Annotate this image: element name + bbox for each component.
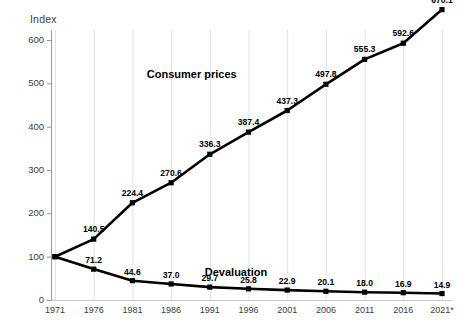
series-label-consumer-prices: Consumer prices: [147, 68, 237, 80]
data-point-marker: [323, 82, 328, 87]
data-point-label: 140.5: [72, 224, 116, 234]
data-point-marker: [130, 200, 135, 205]
y-tickmarks: [47, 41, 52, 301]
data-point-marker: [439, 291, 444, 296]
y-tick-label: 200: [8, 207, 44, 218]
data-point-label: 22.9: [265, 276, 309, 286]
chart-container: Index 6005004003002001000 19711976198119…: [0, 0, 458, 335]
data-point-marker: [169, 281, 174, 286]
data-point-label: 270.6: [149, 168, 193, 178]
data-point-label: 14.9: [420, 280, 458, 290]
data-point-marker: [285, 108, 290, 113]
data-point-label: 18.0: [343, 278, 387, 288]
y-tick-label: 100: [8, 251, 44, 262]
y-tick-label: 600: [8, 34, 44, 45]
data-point-marker: [91, 237, 96, 242]
data-point-marker: [207, 152, 212, 157]
data-point-label: 16.9: [381, 279, 425, 289]
data-point-label: 29.7: [188, 273, 232, 283]
data-point-label: 555.3: [343, 44, 387, 54]
data-point-marker: [246, 130, 251, 135]
data-point-label: 44.6: [110, 267, 154, 277]
data-point-label: 387.4: [227, 117, 271, 127]
data-point-label: 37.0: [149, 270, 193, 280]
data-point-marker: [52, 254, 57, 259]
data-point-label: 25.8: [227, 275, 271, 285]
data-point-marker: [285, 287, 290, 292]
data-point-label: 336.3: [188, 139, 232, 149]
data-point-label: 592.6: [381, 28, 425, 38]
x-tick-label: 2021*: [418, 305, 458, 315]
data-point-label: 437.3: [265, 96, 309, 106]
y-tick-label: 300: [8, 164, 44, 175]
data-point-marker: [362, 57, 367, 62]
data-point-marker: [246, 286, 251, 291]
y-tick-label: 400: [8, 121, 44, 132]
data-point-label: 497.8: [304, 69, 348, 79]
y-tick-label: 0: [8, 294, 44, 305]
data-point-marker: [207, 285, 212, 290]
data-point-marker: [362, 290, 367, 295]
data-point-marker: [401, 41, 406, 46]
y-axis-title: Index: [30, 13, 57, 25]
data-point-label: 224.4: [110, 188, 154, 198]
data-point-marker: [91, 267, 96, 272]
data-point-marker: [130, 278, 135, 283]
data-point-marker: [169, 180, 174, 185]
data-point-marker: [439, 7, 444, 12]
clipped-caption: [6, 327, 456, 335]
data-point-marker: [323, 289, 328, 294]
data-point-marker: [401, 290, 406, 295]
data-point-label: 71.2: [72, 255, 116, 265]
data-point-label: 670.1: [420, 0, 458, 5]
y-tick-label: 500: [8, 77, 44, 88]
data-point-label: 20.1: [304, 277, 348, 287]
